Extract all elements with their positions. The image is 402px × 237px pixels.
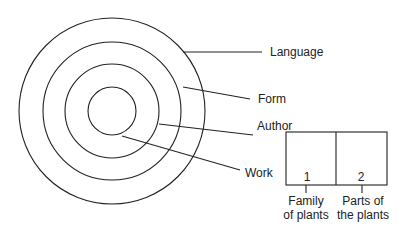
ring-work <box>88 87 136 135</box>
caption-2-line1: Parts of <box>342 194 384 208</box>
caption-1-line2: of plants <box>283 208 328 222</box>
leader-form <box>183 87 250 99</box>
ring-form <box>43 42 181 180</box>
label-author: Author <box>257 119 292 133</box>
caption-2-line2: the plants <box>337 208 389 222</box>
cell-number-1: 1 <box>304 170 311 184</box>
leader-author <box>159 124 253 135</box>
cell-number-2: 2 <box>358 170 365 184</box>
leader-work <box>122 136 240 170</box>
ring-language <box>19 18 205 204</box>
caption-1-line1: Family <box>288 194 323 208</box>
label-work: Work <box>245 166 274 180</box>
ring-author <box>65 64 159 158</box>
concentric-facet-diagram: Language Form Author Work 1 2 Family of … <box>0 0 402 237</box>
label-language: Language <box>270 45 324 59</box>
label-form: Form <box>258 92 286 106</box>
